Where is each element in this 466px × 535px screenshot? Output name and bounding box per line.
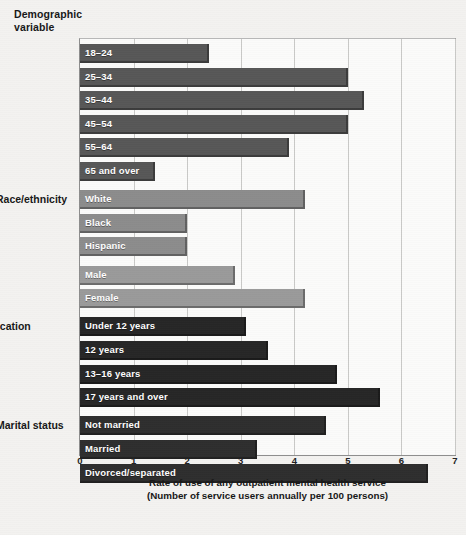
bar: Under 12 years	[80, 317, 246, 336]
bar-label: Hispanic	[80, 240, 126, 251]
bar: 18–24	[80, 44, 209, 63]
x-tick-label-6: 6	[399, 455, 404, 466]
x-tick-label-5: 5	[345, 455, 350, 466]
group-label-column: AgeRace/ethnicitySexEducationMarital sta…	[14, 38, 75, 454]
group-label-age: Age	[0, 47, 75, 59]
bar: 45–54	[80, 115, 348, 134]
bar-label: 65 and over	[80, 165, 139, 176]
bar-label: 13–16 years	[80, 368, 141, 379]
bar: Female	[80, 289, 305, 308]
bar-label: 45–54	[80, 118, 112, 129]
x-axis-ticks: 01234567	[79, 455, 456, 473]
bar: Hispanic	[80, 237, 187, 256]
bar: 65 and over	[80, 162, 155, 181]
bar-label: 35–44	[80, 94, 112, 105]
bar-label: Under 12 years	[80, 320, 155, 331]
x-tick-label-3: 3	[238, 455, 243, 466]
bar: 13–16 years	[80, 365, 337, 384]
bar: 55–64	[80, 138, 289, 157]
bar: Male	[80, 266, 235, 285]
bar: 25–34	[80, 68, 348, 87]
group-label-sex: Sex	[0, 269, 75, 281]
bar-label: 18–24	[80, 47, 112, 58]
bar-label: 12 years	[80, 344, 124, 355]
bar-label: Male	[80, 269, 107, 280]
axis-title-line-1: Rate of use of any outpatient mental hea…	[79, 476, 456, 489]
x-axis-title: Rate of use of any outpatient mental hea…	[79, 476, 456, 502]
bar: Not married	[80, 416, 326, 435]
x-tick-label-0: 0	[77, 455, 82, 466]
bar: 12 years	[80, 341, 268, 360]
bar-label: Female	[80, 292, 119, 303]
bar-label: White	[80, 193, 112, 204]
x-tick-label-2: 2	[184, 455, 189, 466]
bar: Black	[80, 214, 187, 233]
axis-title-line-2: (Number of service users annually per 10…	[79, 489, 456, 502]
header-line-2: variable	[14, 21, 109, 34]
bar-series: 18–2425–3435–4445–5455–6465 and overWhit…	[80, 39, 455, 455]
gridline-7	[455, 39, 456, 455]
bar: 35–44	[80, 91, 364, 110]
bar-label: Not married	[80, 419, 140, 430]
bar-label: 17 years and over	[80, 391, 168, 402]
chart-figure: Demographic variable AgeRace/ethnicitySe…	[0, 0, 466, 535]
demographic-variable-header: Demographic variable	[14, 8, 109, 34]
x-tick-label-1: 1	[131, 455, 136, 466]
header-line-1: Demographic	[14, 8, 109, 21]
bar: 17 years and over	[80, 388, 380, 407]
group-label-education: Education	[0, 320, 75, 332]
bar-label: 55–64	[80, 141, 112, 152]
plot-area: 18–2425–3435–4445–5455–6465 and overWhit…	[79, 38, 456, 456]
x-tick-label-4: 4	[292, 455, 297, 466]
x-tick-label-7: 7	[452, 455, 457, 466]
bar: White	[80, 190, 305, 209]
bar-label: 25–34	[80, 71, 112, 82]
bar-label: Married	[80, 443, 120, 454]
bar-label: Black	[80, 217, 111, 228]
